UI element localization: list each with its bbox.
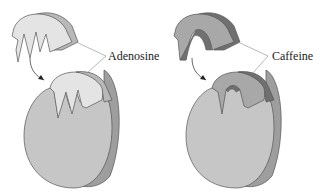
adenosine-panel bbox=[12, 13, 119, 188]
caffeine-panel bbox=[174, 13, 281, 188]
leader-line-free-adenosine bbox=[76, 42, 106, 56]
arrowhead-left bbox=[38, 75, 44, 80]
diagram-canvas bbox=[0, 0, 322, 195]
leader-line-free-caffeine bbox=[238, 42, 268, 56]
receptor-face-right bbox=[186, 88, 274, 188]
receptor-face-left bbox=[24, 88, 112, 188]
arrowhead-right bbox=[200, 75, 206, 80]
adenosine-label: Adenosine bbox=[108, 50, 159, 62]
caffeine-label: Caffeine bbox=[272, 50, 313, 62]
leader-line-bound-adenosine bbox=[88, 56, 106, 72]
leader-line-bound-caffeine bbox=[252, 56, 268, 74]
